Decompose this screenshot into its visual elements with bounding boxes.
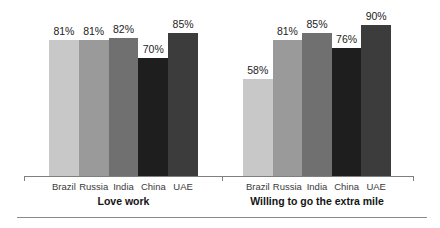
bars-extra-mile: 58%81%85%76%90%: [243, 0, 391, 176]
category-label: Russia: [273, 181, 303, 192]
bar-rect: [138, 58, 168, 176]
value-label: 58%: [247, 65, 268, 76]
bar-russia: 81%: [273, 0, 303, 176]
bar-rect: [243, 79, 273, 176]
category-label: India: [302, 181, 332, 192]
value-label: 76%: [336, 34, 357, 45]
value-label: 81%: [83, 26, 104, 37]
category-label: China: [138, 181, 168, 192]
value-label: 81%: [53, 26, 74, 37]
category-label: India: [109, 181, 139, 192]
category-label: Russia: [79, 181, 109, 192]
bar-uae: 90%: [361, 0, 391, 176]
x-axis-line: [24, 176, 414, 177]
value-label: 90%: [366, 11, 387, 22]
category-labels-love-work: BrazilRussiaIndiaChinaUAE: [49, 181, 198, 192]
value-label: 81%: [277, 26, 298, 37]
bar-china: 76%: [332, 0, 362, 176]
category-label: UAE: [168, 181, 198, 192]
bars-love-work: 81%81%82%70%85%: [49, 0, 198, 176]
category-label: Brazil: [243, 181, 273, 192]
bar-group-extra-mile: 58%81%85%76%90% BrazilRussiaIndiaChinaUA…: [243, 0, 391, 228]
category-label: UAE: [361, 181, 391, 192]
bar-rect: [168, 33, 198, 176]
bar-rect: [361, 25, 391, 176]
bar-uae: 85%: [168, 0, 198, 176]
group-title-extra-mile: Willing to go the extra mile: [243, 195, 391, 207]
bar-rect: [302, 33, 332, 176]
bar-group-love-work: 81%81%82%70%85% BrazilRussiaIndiaChinaUA…: [49, 0, 198, 228]
category-label: Brazil: [49, 181, 79, 192]
value-label: 82%: [113, 24, 134, 35]
axis-tick-middle: [222, 177, 223, 181]
bottom-divider: [17, 217, 427, 218]
bar-rect: [273, 40, 303, 176]
bar-brazil: 58%: [243, 0, 273, 176]
axis-tick-right: [413, 177, 414, 181]
bar-rect: [79, 40, 109, 176]
value-label: 85%: [173, 19, 194, 30]
bar-russia: 81%: [79, 0, 109, 176]
value-label: 85%: [306, 19, 327, 30]
bar-rect: [49, 40, 79, 176]
value-label: 70%: [143, 44, 164, 55]
category-labels-extra-mile: BrazilRussiaIndiaChinaUAE: [243, 181, 391, 192]
grouped-bar-chart: 81%81%82%70%85% BrazilRussiaIndiaChinaUA…: [0, 0, 440, 228]
bar-india: 85%: [302, 0, 332, 176]
bar-india: 82%: [109, 0, 139, 176]
axis-tick-left: [24, 177, 25, 181]
bar-china: 70%: [138, 0, 168, 176]
bar-rect: [109, 38, 139, 176]
group-title-love-work: Love work: [49, 195, 198, 207]
bar-brazil: 81%: [49, 0, 79, 176]
category-label: China: [332, 181, 362, 192]
bar-rect: [332, 48, 362, 176]
